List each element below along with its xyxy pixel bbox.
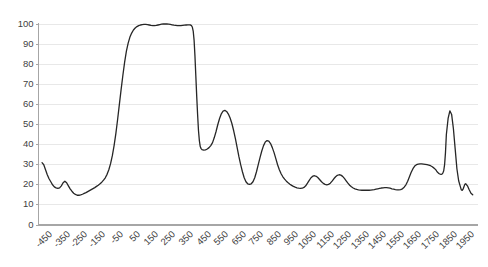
y-tick-label: 40	[6, 139, 34, 149]
y-tick-label: 10	[6, 199, 34, 209]
data-series-group	[42, 24, 473, 195]
y-tick-label: 90	[6, 39, 34, 49]
y-tick-label: 50	[6, 119, 34, 129]
y-tick-label: 0	[6, 220, 34, 230]
y-tick-label: 80	[6, 59, 34, 69]
y-tick-label: 60	[6, 99, 34, 109]
gridlines-group	[39, 24, 479, 225]
y-tick-label: 20	[6, 179, 34, 189]
data-line-1	[42, 24, 473, 195]
chart-container: 0102030405060708090100 -450-350-250-150-…	[0, 0, 488, 267]
y-tick-label: 70	[6, 79, 34, 89]
y-tick-label: 100	[6, 19, 34, 29]
y-tick-label: 30	[6, 159, 34, 169]
